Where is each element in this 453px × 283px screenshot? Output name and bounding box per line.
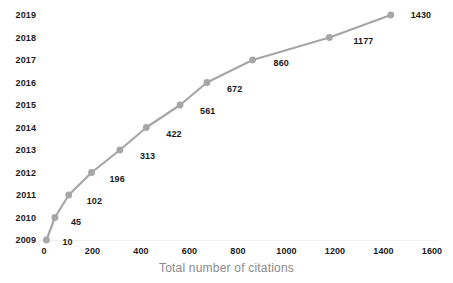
data-point-label: 45: [71, 217, 81, 227]
x-tick-label: 1600: [422, 246, 442, 256]
data-point-label: 561: [200, 106, 215, 116]
data-point-label: 313: [140, 151, 155, 161]
x-tick-label: 600: [182, 246, 197, 256]
data-point-label: 196: [110, 174, 125, 184]
x-tick-label: 0: [41, 246, 46, 256]
x-tick-label: 200: [85, 246, 100, 256]
citations-line-chart: 2009201020112012201320142015201620172018…: [0, 0, 453, 283]
x-axis-title: Total number of citations: [0, 261, 453, 275]
data-point-label: 1177: [353, 36, 373, 46]
x-tick-label: 1200: [325, 246, 345, 256]
data-point-label: 422: [166, 129, 181, 139]
x-tick-label: 1000: [276, 246, 296, 256]
x-tick-label: 800: [230, 246, 245, 256]
data-point-label: 672: [227, 84, 242, 94]
data-point-label: 10: [62, 237, 72, 247]
x-tick-label: 400: [133, 246, 148, 256]
x-tick-label: 1400: [373, 246, 393, 256]
data-point-label: 1430: [411, 10, 431, 20]
data-point-label: 860: [274, 58, 289, 68]
data-point-label: 102: [87, 196, 102, 206]
